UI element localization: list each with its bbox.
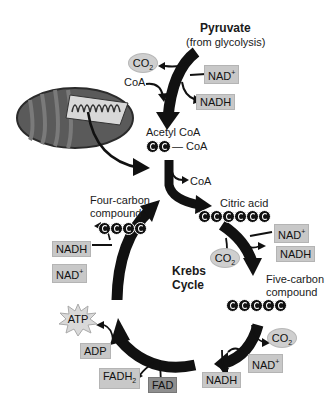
fadh2-box: FADH2	[99, 368, 140, 389]
co2-step1: CO2	[210, 248, 240, 268]
four-carbon-label-1: Four-carbon	[90, 194, 150, 206]
five-carbon-label-2: compound	[266, 286, 317, 298]
atp-star: ATP	[58, 303, 98, 337]
acetyl-carbons	[146, 140, 170, 153]
four-carbon-label-2: compound	[90, 207, 141, 219]
five-carbon-label-1: Five-carbon	[266, 273, 324, 285]
coa-tag: CoA	[186, 140, 207, 152]
pyruvate-label: Pyruvate	[200, 22, 251, 34]
cycle-label-line2: Cycle	[172, 279, 204, 291]
nadh-prep: NADH	[196, 94, 235, 110]
pyruvate-source: (from glycolysis)	[186, 36, 265, 48]
coa-released-label: CoA	[190, 175, 211, 187]
co2-step2: CO2	[267, 328, 297, 348]
acetyl-coa-label: Acetyl CoA	[146, 126, 200, 138]
carbon-icon	[158, 140, 171, 153]
nad-plus-step1: NAD+	[274, 224, 309, 243]
nad-plus-step2: NAD+	[248, 354, 283, 373]
acetyl-coa-tag: — CoA	[172, 140, 207, 152]
nadh-step5: NADH	[52, 241, 91, 257]
citric-acid-carbons	[198, 210, 270, 223]
fad-box: FAD	[148, 377, 177, 393]
nad-plus-step5: NAD+	[52, 264, 87, 283]
coa-in-label: CoA	[124, 76, 145, 88]
nadh-step1: NADH	[276, 246, 315, 262]
co2-prep: CO2	[128, 53, 158, 73]
four-carbon-carbons	[98, 222, 146, 235]
mitochondrion-icon	[17, 88, 133, 148]
citric-acid-label: Citric acid	[220, 197, 268, 209]
atp-label: ATP	[58, 313, 98, 325]
nadh-step2: NADH	[202, 372, 241, 388]
cycle-label-line1: Krebs	[172, 265, 206, 277]
five-carbon-carbons	[226, 299, 286, 312]
adp-box: ADP	[80, 343, 111, 359]
nad-plus-prep: NAD+	[204, 65, 239, 84]
